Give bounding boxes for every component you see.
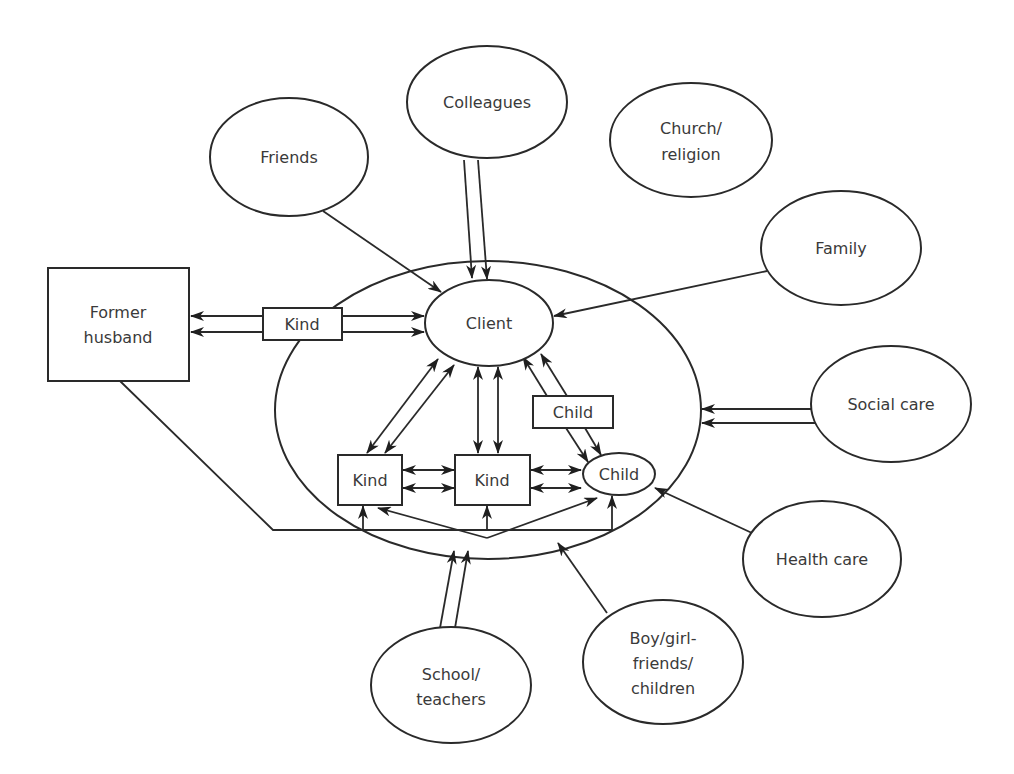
node-label-line1: Boy/girl-	[629, 629, 696, 648]
edge-client-kindleft-1	[367, 359, 438, 453]
node-label-line1: School/	[422, 665, 481, 684]
edge-childbox-child-1	[566, 428, 588, 462]
edge-client-kindleft-2	[385, 365, 454, 453]
edge-childbox-client-2	[541, 354, 567, 396]
edge-v-kindleft	[378, 508, 487, 538]
node-label: Kind	[474, 471, 509, 490]
edge-school-1	[440, 551, 454, 628]
node-label-line2: teachers	[416, 690, 486, 709]
node-family: Family	[761, 191, 921, 305]
edge-childbox-child-2	[585, 428, 601, 455]
node-label: Client	[466, 314, 512, 333]
node-friends: Friends	[210, 98, 368, 216]
node-label: Family	[815, 239, 866, 258]
node-church-religion: Church/ religion	[610, 83, 772, 197]
node-health-care: Health care	[743, 501, 901, 617]
node-kind-link: Kind	[263, 308, 342, 340]
node-label: Kind	[284, 315, 319, 334]
node-label-line3: children	[631, 679, 695, 698]
node-label-line2: husband	[84, 328, 153, 347]
ecomap-diagram: Colleagues Friends Church/ religion Fami…	[0, 0, 1014, 774]
node-label: Child	[599, 465, 639, 484]
node-label: Colleagues	[443, 93, 531, 112]
node-boy-girl-friends-children: Boy/girl- friends/ children	[583, 600, 743, 724]
node-former-husband: Former husband	[48, 268, 189, 381]
node-label: Friends	[260, 148, 318, 167]
node-label-line1: Former	[90, 303, 147, 322]
node-label: Social care	[847, 395, 934, 414]
node-school-teachers: School/ teachers	[371, 627, 531, 743]
node-child: Child	[583, 453, 655, 495]
node-label: Health care	[776, 550, 868, 569]
edge-school-2	[455, 551, 468, 628]
edge-colleagues-client-1	[464, 160, 472, 278]
node-label-line2: religion	[661, 145, 721, 164]
node-child-link: Child	[533, 396, 613, 428]
node-kind-middle: Kind	[455, 455, 530, 505]
edge-healthcare-child	[655, 488, 752, 533]
node-social-care: Social care	[811, 346, 971, 462]
edge-boygirl	[558, 543, 607, 613]
node-label: Kind	[352, 471, 387, 490]
node-kind-left: Kind	[338, 455, 402, 505]
node-colleagues: Colleagues	[407, 46, 567, 158]
edge-childbox-client-1	[523, 357, 547, 396]
node-label-line2: friends/	[633, 654, 694, 673]
node-label: Child	[553, 403, 593, 422]
node-client: Client	[425, 280, 553, 366]
node-label-line1: Church/	[660, 119, 723, 138]
